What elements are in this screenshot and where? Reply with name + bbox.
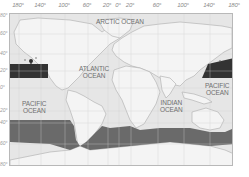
world-map: ARCTIC OCEAN ATLANTIC OCEAN PACIFIC OCEA… (9, 13, 233, 166)
pacific-ocean-west-label: PACIFIC OCEAN (22, 100, 46, 114)
lon-label: 60° (153, 2, 161, 8)
lat-label: 0° (0, 84, 5, 90)
lon-label: 100° (177, 2, 189, 8)
lat-label: 40° (0, 50, 8, 56)
pacific-ocean-east-label: PACIFIC OCEAN (205, 82, 229, 96)
longitude-labels: 180° 140° 100° 60° 20° 0° 20° 60° 100° 1… (0, 2, 249, 12)
lon-label: 100° (58, 2, 70, 8)
lat-label: 20° (0, 67, 8, 73)
lon-label: 20° (103, 2, 111, 8)
map-graphic (10, 14, 233, 166)
marker-dot (219, 60, 221, 62)
lon-label: 60° (83, 2, 91, 8)
lat-label: 40° (0, 119, 8, 125)
indian-ocean-label: INDIAN OCEAN (160, 99, 183, 113)
lon-label: 140° (34, 2, 46, 8)
latitude-labels: 80° 60° 40° 20° 0° 20° 40° 60° 80° (0, 0, 9, 177)
lon-label: 20° (126, 2, 134, 8)
lat-label: 80° (0, 12, 8, 18)
lon-label: 180° (228, 2, 240, 8)
lat-label: 60° (0, 30, 8, 36)
lat-label: 20° (0, 107, 8, 113)
atlantic-ocean-label: ATLANTIC OCEAN (79, 65, 109, 79)
lon-label: 0° (115, 2, 120, 8)
lon-label: 140° (203, 2, 215, 8)
lat-label: 80° (0, 161, 8, 167)
lat-label: 60° (0, 140, 8, 146)
arctic-ocean-label: ARCTIC OCEAN (96, 18, 144, 25)
lon-label: 180° (12, 2, 24, 8)
